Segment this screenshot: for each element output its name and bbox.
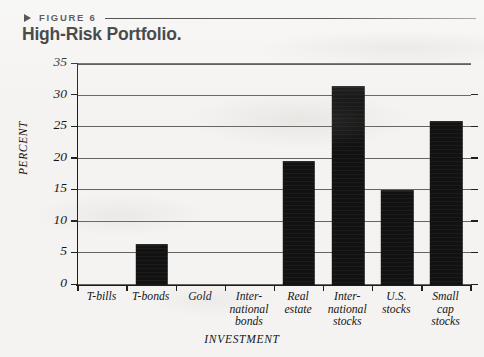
y-tick-mark bbox=[71, 189, 78, 190]
page-title: High-Risk Portfolio. bbox=[22, 24, 181, 45]
y-tick-mark bbox=[71, 126, 78, 127]
bar-slot bbox=[78, 64, 127, 285]
bar-slot bbox=[225, 64, 274, 285]
y-axis-label: 20 bbox=[54, 149, 68, 165]
y-axis-label: 15 bbox=[54, 181, 68, 197]
bar bbox=[283, 161, 315, 285]
y-tick-mark-right bbox=[471, 189, 478, 190]
bar bbox=[381, 190, 413, 285]
x-axis-title: INVESTMENT bbox=[0, 333, 484, 345]
x-tick-mark bbox=[323, 285, 324, 291]
x-axis-label-line: estate bbox=[275, 304, 322, 317]
x-axis-label: Inter-nationalstocks bbox=[323, 291, 372, 329]
x-axis-label-line: Inter- bbox=[225, 291, 272, 304]
x-axis-label: T-bonds bbox=[126, 291, 175, 329]
y-axis-label: 35 bbox=[54, 54, 68, 70]
x-tick-mark bbox=[126, 285, 127, 291]
y-tick-mark-right bbox=[471, 220, 478, 221]
header-divider bbox=[105, 18, 476, 19]
y-tick-mark-right bbox=[471, 157, 478, 158]
x-axis-label-line: stocks bbox=[373, 304, 420, 317]
y-tick-mark bbox=[71, 63, 78, 64]
y-tick-mark-right bbox=[471, 126, 478, 127]
x-axis-label-line: T-bonds bbox=[127, 291, 174, 304]
plot-area: 05101520253035 bbox=[77, 64, 471, 285]
x-tick-mark bbox=[274, 285, 275, 291]
bar-slot bbox=[373, 64, 422, 285]
y-axis-label: 10 bbox=[54, 212, 68, 228]
bar-slot bbox=[127, 64, 176, 285]
y-axis-label: 25 bbox=[54, 118, 68, 134]
x-tick-mark bbox=[372, 285, 373, 291]
y-tick-mark bbox=[71, 220, 78, 221]
bar-slot bbox=[176, 64, 225, 285]
y-tick-mark bbox=[71, 94, 78, 95]
y-axis-title: PERCENT bbox=[17, 121, 29, 175]
x-tick-mark bbox=[225, 285, 226, 291]
bar bbox=[332, 86, 364, 285]
bar bbox=[430, 121, 462, 285]
y-tick-mark bbox=[71, 252, 78, 253]
bar-series bbox=[78, 64, 471, 285]
y-tick-mark bbox=[71, 157, 78, 158]
x-axis-label-line: stocks bbox=[324, 316, 371, 329]
x-axis-label-line: Gold bbox=[176, 291, 223, 304]
x-axis-label-line: stocks bbox=[422, 316, 469, 329]
figure-6-bar-chart: FIGURE 6 High-Risk Portfolio. PERCENT 05… bbox=[0, 0, 484, 357]
x-axis-label: T-bills bbox=[77, 291, 126, 329]
x-axis-label: Realestate bbox=[274, 291, 323, 329]
bar-slot bbox=[275, 64, 324, 285]
x-axis-label: Inter-nationalbonds bbox=[224, 291, 273, 329]
x-tick-mark bbox=[470, 285, 471, 291]
triangle-right-icon bbox=[24, 14, 31, 22]
x-axis-label-line: T-bills bbox=[78, 291, 125, 304]
x-axis-label: Smallcapstocks bbox=[421, 291, 470, 329]
bar bbox=[135, 244, 167, 285]
y-axis-label: 5 bbox=[60, 244, 67, 260]
y-tick-mark-right bbox=[471, 284, 478, 285]
y-tick-mark-right bbox=[471, 94, 478, 95]
x-axis-tick-labels: T-billsT-bondsGoldInter-nationalbondsRea… bbox=[77, 291, 470, 329]
y-axis-label: 0 bbox=[60, 275, 67, 291]
bar-slot bbox=[324, 64, 373, 285]
x-tick-mark bbox=[421, 285, 422, 291]
x-axis-label: U.S.stocks bbox=[372, 291, 421, 329]
bar-slot bbox=[422, 64, 471, 285]
y-tick-mark-right bbox=[471, 252, 478, 253]
figure-header: FIGURE 6 bbox=[24, 11, 476, 24]
x-tick-mark bbox=[176, 285, 177, 291]
x-tick-mark bbox=[77, 285, 78, 291]
x-axis-label: Gold bbox=[175, 291, 224, 329]
x-axis-label-line: Inter- bbox=[324, 291, 371, 304]
y-axis-label: 30 bbox=[54, 86, 68, 102]
x-axis-label-line: Real bbox=[275, 291, 322, 304]
x-axis-label-line: U.S. bbox=[373, 291, 420, 304]
x-axis-label-line: Small bbox=[422, 291, 469, 304]
figure-number-label: FIGURE 6 bbox=[39, 12, 96, 23]
x-axis-label-line: bonds bbox=[225, 316, 272, 329]
